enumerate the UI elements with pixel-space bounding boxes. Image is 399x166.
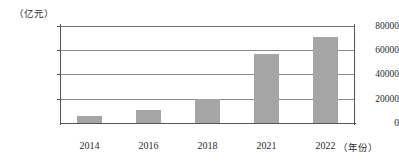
bar-2016 xyxy=(136,110,161,123)
x-axis-unit-label: （年份） xyxy=(338,140,378,154)
x-axis-line xyxy=(60,123,356,124)
plot-right-border xyxy=(354,24,355,125)
y-axis-unit-label: （亿元） xyxy=(14,6,54,20)
bar-2014 xyxy=(77,116,102,123)
bar-2021 xyxy=(254,54,279,123)
gridline-40000 xyxy=(60,74,355,75)
bar-2022 xyxy=(313,37,338,123)
bar-2018 xyxy=(195,99,220,123)
x-tick-label-2021: 2021 xyxy=(237,140,297,151)
x-tick-label-2016: 2016 xyxy=(119,140,179,151)
bar-chart: （亿元） 80000 60000 40000 20000 0 2014 2016… xyxy=(0,0,399,166)
gridline-60000 xyxy=(60,50,355,51)
gridline-80000 xyxy=(60,26,355,27)
y-axis-line xyxy=(60,24,61,125)
x-tick-label-2018: 2018 xyxy=(178,140,238,151)
x-tick-label-2014: 2014 xyxy=(60,140,120,151)
